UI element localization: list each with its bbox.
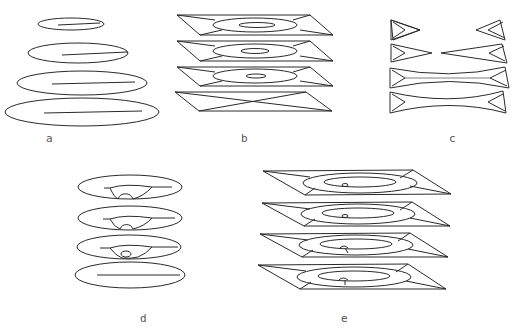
- panel-c: [390, 20, 509, 113]
- panel-d: [75, 175, 185, 288]
- panel-label-d: d: [140, 312, 147, 325]
- panel-label-a: a: [46, 132, 53, 145]
- panel-e: [258, 170, 451, 289]
- panel-a: [5, 18, 159, 126]
- panel-label-c: c: [449, 132, 456, 145]
- panel-label-e: e: [341, 312, 348, 325]
- panel-label-b: b: [241, 132, 248, 145]
- panel-b: [175, 15, 333, 111]
- figure-canvas: [0, 0, 529, 331]
